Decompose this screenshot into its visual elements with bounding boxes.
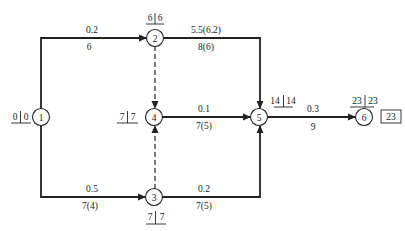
- node-2: 2: [147, 30, 164, 47]
- node-4-earliest-time: 7: [120, 112, 125, 122]
- time-label-node-2: 6 6: [146, 13, 164, 24]
- activity-1-2-bottom-label: 6: [87, 42, 92, 52]
- activity-2-5-bottom-label: 8(6): [198, 42, 214, 53]
- activity-4-5: 0.1 7(5): [162, 104, 250, 132]
- total-duration-value: 23: [386, 112, 396, 122]
- node-5-earliest-time: 14: [270, 96, 280, 106]
- activity-3-5-top-label: 0.2: [198, 184, 210, 194]
- node-5-latest-time: 14: [286, 96, 296, 106]
- activity-4-5-bottom-label: 7(5): [196, 121, 212, 132]
- time-label-node-3: 7 7: [146, 211, 166, 224]
- node-5-number: 5: [257, 113, 262, 123]
- network-diagram: 0.2 6 5.5(6.2) 8(6) 0.5 7(4) 0.2 7(5) 0.…: [0, 0, 405, 231]
- activity-5-6: 0.3 9: [267, 104, 355, 132]
- activity-1-3: 0.5 7(4): [41, 125, 145, 212]
- node-3-earliest-time: 7: [148, 212, 153, 222]
- node-2-earliest-time: 6: [148, 13, 153, 23]
- arrow-1-2: [41, 38, 146, 109]
- activity-4-5-top-label: 0.1: [198, 104, 210, 114]
- time-label-node-6: 23 23: [350, 95, 378, 107]
- node-5: 5: [251, 109, 268, 126]
- total-duration-box: 23: [381, 110, 401, 123]
- node-4-latest-time: 7: [131, 112, 136, 122]
- node-3: 3: [146, 189, 163, 206]
- activity-1-2-top-label: 0.2: [86, 25, 98, 35]
- node-6-latest-time: 23: [368, 96, 378, 106]
- activity-5-6-bottom-label: 9: [311, 122, 316, 132]
- node-1-earliest-time: 0: [13, 112, 18, 122]
- node-6-earliest-time: 23: [352, 96, 362, 106]
- node-6-number: 6: [362, 113, 367, 123]
- node-1: 1: [33, 109, 50, 126]
- activity-3-5-bottom-label: 7(5): [196, 201, 212, 212]
- activity-2-5-top-label: 5.5(6.2): [191, 25, 221, 36]
- node-4-number: 4: [152, 113, 157, 123]
- node-1-latest-time: 0: [24, 112, 29, 122]
- node-3-number: 3: [152, 193, 157, 203]
- node-1-number: 1: [39, 113, 44, 123]
- node-2-latest-time: 6: [158, 13, 163, 23]
- time-label-node-5: 14 14: [270, 95, 296, 107]
- activity-3-5: 0.2 7(5): [163, 126, 260, 212]
- time-label-node-4: 7 7: [117, 111, 138, 123]
- time-label-node-1: 0 0: [11, 111, 31, 123]
- arrow-3-5: [163, 126, 260, 197]
- activity-1-2: 0.2 6: [41, 25, 146, 109]
- activity-1-3-top-label: 0.5: [86, 184, 98, 194]
- node-3-latest-time: 7: [160, 212, 165, 222]
- activity-1-3-bottom-label: 7(4): [82, 201, 98, 212]
- activity-2-5: 5.5(6.2) 8(6): [163, 25, 260, 108]
- node-2-number: 2: [153, 34, 158, 44]
- node-6: 6: [356, 109, 373, 126]
- node-4: 4: [146, 109, 163, 126]
- activity-5-6-top-label: 0.3: [307, 104, 319, 114]
